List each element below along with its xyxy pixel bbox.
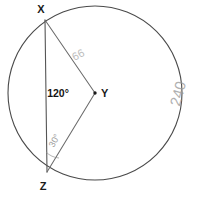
geometry-diagram: X Y Z 120° 30° 240 66: [0, 0, 218, 200]
circle-diagram-canvas: X Y Z 120° 30° 240 66: [0, 0, 218, 200]
vertex-label-z: Z: [40, 180, 47, 192]
angle-label-yzx: 30°: [47, 132, 62, 149]
vertex-label-y: Y: [101, 87, 109, 99]
center-point-dot: [93, 91, 96, 94]
vertex-label-x: X: [37, 3, 45, 15]
segment-radius-xy: [45, 20, 95, 93]
annotation-handwritten-240: 240: [166, 79, 189, 108]
segment-radius-zy: [47, 93, 95, 172]
angle-label-central-xyz: 120°: [47, 87, 69, 99]
